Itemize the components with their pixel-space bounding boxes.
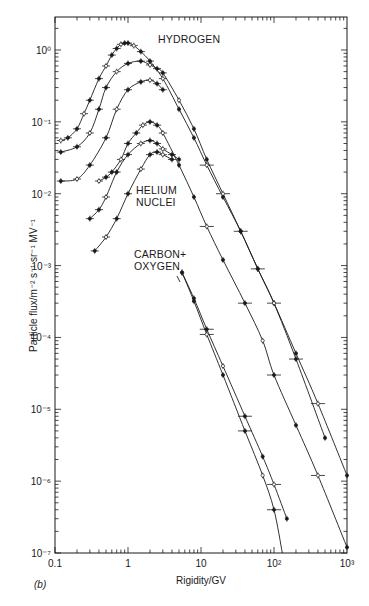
- y-tick-label: 10⁻⁶: [31, 476, 51, 487]
- data-point: [141, 124, 144, 127]
- data-point: [148, 79, 151, 82]
- data-point: [239, 230, 242, 233]
- data-point: [192, 136, 195, 139]
- data-point: [97, 77, 100, 80]
- data-point: [272, 373, 275, 376]
- data-point: [155, 67, 158, 70]
- data-point: [59, 179, 62, 182]
- data-points: [57, 40, 349, 550]
- x-tick-label: 10²: [267, 558, 282, 569]
- data-point: [155, 150, 158, 153]
- data-point: [272, 302, 275, 305]
- data-point: [75, 127, 78, 130]
- data-point: [75, 145, 78, 148]
- series-curve: [182, 273, 282, 553]
- data-point: [205, 328, 208, 331]
- data-point: [221, 258, 224, 261]
- spectrum-chart: 0.111010²10³10⁰10⁻¹10⁻²10⁻³10⁻⁴10⁻⁵10⁻⁶1…: [0, 0, 369, 606]
- data-point: [192, 127, 195, 130]
- data-point: [261, 455, 264, 458]
- series-curve: [61, 61, 325, 438]
- y-axis-label: Particle flux/m⁻² s⁻¹ sr⁻¹ MV⁻¹: [28, 201, 39, 371]
- data-point: [177, 158, 180, 161]
- data-point: [126, 41, 129, 44]
- data-point: [155, 142, 158, 145]
- data-point: [139, 50, 142, 53]
- data-point: [104, 195, 107, 198]
- data-point: [119, 158, 122, 161]
- data-point: [104, 64, 107, 67]
- data-point: [88, 217, 91, 220]
- data-point: [345, 474, 348, 477]
- data-point: [126, 192, 129, 195]
- series-curve: [61, 43, 347, 476]
- data-point: [104, 86, 107, 89]
- carbon-label-line1: CARBON+: [134, 248, 186, 260]
- data-point: [82, 112, 85, 115]
- data-point: [243, 302, 246, 305]
- data-point: [177, 164, 180, 167]
- data-point: [205, 164, 208, 167]
- data-point: [135, 131, 138, 134]
- helium-label: HELIUM NUCLEI: [136, 184, 177, 208]
- data-point: [170, 153, 173, 156]
- x-tick-label: 0.1: [48, 558, 62, 569]
- carbon-oxygen-label: CARBON+ OXYGEN: [134, 248, 186, 272]
- data-point: [161, 147, 164, 150]
- data-point: [88, 99, 91, 102]
- data-point: [205, 158, 208, 161]
- data-point: [110, 53, 113, 56]
- data-point: [93, 249, 96, 252]
- data-point: [59, 150, 62, 153]
- data-point: [115, 47, 118, 50]
- data-point: [161, 88, 164, 91]
- y-tick-label: 10⁰: [36, 45, 51, 56]
- data-point: [294, 424, 297, 427]
- data-point: [66, 136, 69, 139]
- data-point: [126, 88, 129, 91]
- data-point: [155, 124, 158, 127]
- data-point: [192, 300, 195, 303]
- data-point: [148, 139, 151, 142]
- data-point: [161, 131, 164, 134]
- data-curves: [61, 43, 347, 553]
- data-point: [261, 339, 264, 342]
- data-point: [294, 352, 297, 355]
- data-point: [272, 483, 275, 486]
- data-point: [139, 60, 142, 63]
- data-point: [205, 225, 208, 228]
- panel-label: (b): [34, 579, 46, 590]
- y-tick-label: 10⁻¹: [32, 117, 52, 128]
- data-point: [115, 70, 118, 73]
- data-point: [261, 474, 264, 477]
- data-point: [97, 179, 100, 182]
- hydrogen-label: HYDROGEN: [158, 33, 220, 45]
- carbon-label-line2: OXYGEN: [134, 260, 186, 272]
- x-tick-label: 10³: [340, 558, 355, 569]
- data-point: [170, 158, 173, 161]
- data-point: [115, 108, 118, 111]
- y-tick-label: 10⁻⁷: [31, 548, 51, 559]
- x-tick-label: 10: [195, 558, 207, 569]
- data-point: [243, 429, 246, 432]
- series-curve: [182, 273, 287, 519]
- data-point: [221, 192, 224, 195]
- plot-frame: [55, 17, 347, 553]
- y-tick-label: 10⁻⁵: [31, 404, 51, 415]
- data-point: [115, 217, 118, 220]
- data-point: [75, 177, 78, 180]
- data-point: [139, 142, 142, 145]
- axis-tick-labels: 0.111010²10³10⁰10⁻¹10⁻²10⁻³10⁻⁴10⁻⁵10⁻⁶1…: [31, 45, 355, 569]
- helium-label-line2: NUCLEI: [136, 196, 177, 208]
- x-tick-label: 1: [125, 558, 131, 569]
- data-point: [294, 357, 297, 360]
- data-point: [316, 402, 319, 405]
- data-point: [148, 120, 151, 123]
- helium-label-line1: HELIUM: [136, 184, 177, 196]
- data-point: [316, 474, 319, 477]
- data-point: [256, 267, 259, 270]
- data-point: [205, 333, 208, 336]
- data-point: [161, 71, 164, 74]
- data-point: [97, 208, 100, 211]
- data-point: [192, 195, 195, 198]
